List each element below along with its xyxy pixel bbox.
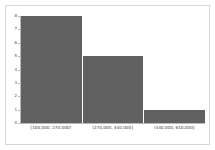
y-axis-tick-label: 0 (14, 121, 17, 125)
x-axis-tick-labels: [100,000, 270,000)(270,000, 440,000](440… (20, 126, 205, 131)
y-axis-tick-label: 4 (14, 68, 17, 72)
y-axis-tick-mark (18, 123, 21, 124)
y-axis-tick-label: 1 (14, 108, 17, 112)
bar (21, 16, 83, 123)
y-axis-tick-label: 8 (14, 14, 17, 18)
bar-series (21, 16, 205, 123)
plot-area: 012345678 (20, 16, 205, 124)
bar (83, 56, 145, 123)
x-axis-tick-label: (270,000, 440,000] (82, 126, 144, 131)
bar (144, 110, 205, 123)
y-axis-tick-label: 7 (14, 27, 17, 31)
x-axis-tick-label: (440,000, 610,000] (143, 126, 205, 131)
y-axis-tick-label: 3 (14, 81, 17, 85)
x-axis-tick-label: [100,000, 270,000) (20, 126, 82, 131)
y-axis-tick-label: 6 (14, 41, 17, 45)
y-axis-tick-label: 5 (14, 54, 17, 58)
y-axis-tick-label: 2 (14, 94, 17, 98)
histogram-figure: 012345678 [100,000, 270,000)(270,000, 44… (0, 0, 215, 150)
